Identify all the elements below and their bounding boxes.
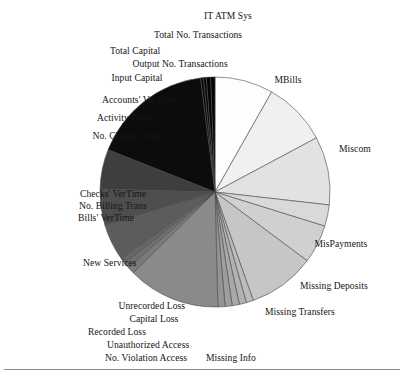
pie-label-checks-vertime: Checks' VerTime (80, 188, 146, 199)
pie-label-missing-deposits: Missing Deposits (300, 280, 368, 291)
pie-label-no-checks-trans: No. Checks' Trans (93, 130, 164, 141)
pie-label-mbills: MBills (275, 74, 302, 85)
pie-label-unrecorded-loss: Unrecorded Loss (119, 300, 186, 311)
pie-label-total-no-transactions: Total No. Transactions (154, 29, 242, 40)
pie-label-bills-vertime: Bills' VerTime (78, 212, 134, 223)
pie-label-output-no-transactions: Output No. Transactions (133, 58, 228, 69)
pie-label-activity-time: Activity Time (97, 112, 151, 123)
pie-label-recorded-loss: Recorded Loss (88, 326, 146, 337)
pie-label-no-violation-access: No. Violation Access (105, 352, 187, 363)
pie-chart-canvas (0, 0, 404, 376)
pie-label-input-capital: Input Capital (112, 72, 163, 83)
pie-label-new-services: New Services (83, 257, 137, 268)
pie-chart-figure: IT ATM SysTotal No. TransactionsTotal Ca… (0, 0, 404, 376)
pie-label-missing-transfers: Missing Transfers (265, 306, 335, 317)
pie-label-it-atm-sys: IT ATM Sys (204, 10, 252, 21)
pie-label-missing-info: Missing Info (206, 352, 256, 363)
pie-label-unauthorized-access: Unauthorized Access (107, 339, 189, 350)
pie-label-accounts-vertime: Accounts' VerTime (102, 94, 176, 105)
pie-label-capital-loss: Capital Loss (130, 313, 179, 324)
pie-label-total-capital: Total Capital (110, 45, 160, 56)
pie-label-no-billing-trans: No. Billing Trans (79, 200, 147, 211)
footer-divider (4, 369, 400, 370)
pie-label-miscom: Miscom (339, 143, 371, 154)
pie-label-mispayments: MisPayments (315, 238, 368, 249)
